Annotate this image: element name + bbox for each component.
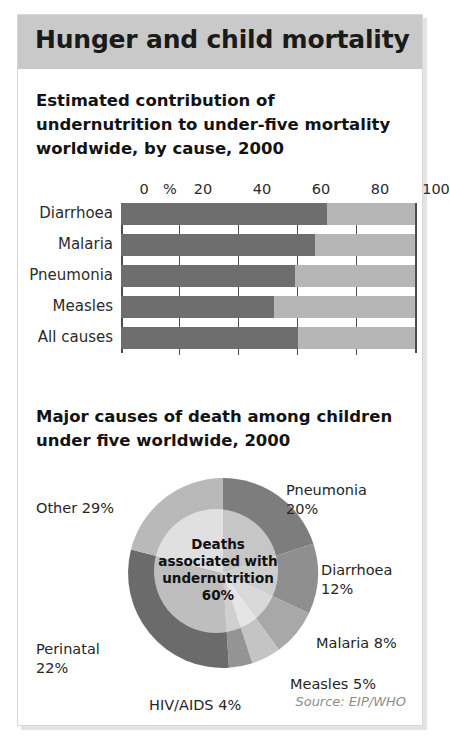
bar-value-measles: [121, 296, 274, 318]
pie-callout-hivaids: HIV/AIDS 4%: [149, 696, 241, 715]
tick-mark-60-g2: [297, 256, 298, 265]
pie-slice-measles: [223, 573, 279, 663]
axis-percent-symbol: %: [163, 181, 177, 197]
axis-tick-0: 0: [139, 181, 148, 197]
page-title: Hunger and child mortality: [35, 25, 410, 54]
infographic-card: Hunger and child mortality Estimated con…: [17, 14, 423, 726]
tick-mark-60-g4: [297, 318, 298, 327]
pie-slice-diarrhoea: [223, 544, 318, 614]
tick-mark-40-g4: [238, 318, 239, 327]
bar-row-label-pneumonia: Pneumonia: [29, 266, 113, 284]
plot-right-border: [415, 203, 417, 353]
pie-chart-title: Major causes of death among children und…: [36, 405, 408, 453]
axis-tick-60: 60: [312, 181, 330, 197]
tick-mark-20-g1: [179, 225, 180, 234]
tick-mark-40-g2: [238, 256, 239, 265]
bar-chart-x-axis: 0 % 20 40 60 80 100: [18, 181, 422, 201]
pie-callout-measles: Measles 5%: [290, 675, 376, 694]
table-row: All causes: [121, 327, 415, 349]
table-row: Diarrhoea: [121, 203, 415, 225]
tick-mark-20-g4: [179, 318, 180, 327]
pie-slice-perinatal: [128, 549, 229, 668]
pie-inner-undernutrition-disc: [154, 509, 278, 633]
table-row: Pneumonia: [121, 265, 415, 287]
axis-tick-80: 80: [371, 181, 389, 197]
bar-chart: 0 % 20 40 60 80 100: [18, 181, 422, 366]
pie-slice-other: [131, 478, 223, 573]
pie-center-undernutrition-label: Deaths associated with undernutrition 60…: [138, 536, 298, 604]
bar-row-label-malaria: Malaria: [58, 235, 113, 253]
bar-chart-title: Estimated contribution of undernutrition…: [36, 89, 408, 161]
axis-tick-20: 20: [194, 181, 212, 197]
bar-row-label-diarrhoea: Diarrhoea: [39, 204, 113, 222]
table-row: Measles: [121, 296, 415, 318]
source-note: Source: EIP/WHO: [295, 694, 406, 709]
bar-value-pneumonia: [121, 265, 295, 287]
bar-chart-plot-area: Diarrhoea Malaria Pneumonia: [121, 203, 417, 353]
tick-mark-80-g2: [356, 256, 357, 265]
bar-value-all-causes: [121, 327, 298, 349]
tick-mark-80-g3: [356, 287, 357, 296]
tick-mark-80-g4: [356, 318, 357, 327]
pie-callout-other: Other 29%: [36, 499, 114, 518]
axis-tick-100: 100: [422, 181, 450, 197]
tick-mark-80-bottom: [356, 349, 357, 355]
bar-value-malaria: [121, 234, 315, 256]
tick-mark-20-g2: [179, 256, 180, 265]
pie-slice-hivaids: [223, 573, 252, 668]
tick-mark-40-g3: [238, 287, 239, 296]
bar-value-diarrhoea: [121, 203, 327, 225]
pie-slice-pneumonia: [223, 478, 313, 573]
table-row: Malaria: [121, 234, 415, 256]
tick-mark-40-g1: [238, 225, 239, 234]
axis-tick-40: 40: [253, 181, 271, 197]
pie-callout-diarrhoea: Diarrhoea 12%: [321, 561, 392, 599]
bar-row-label-all-causes: All causes: [38, 328, 113, 346]
tick-mark-40-bottom: [238, 349, 239, 355]
tick-mark-60-g3: [297, 287, 298, 296]
tick-mark-20-g3: [179, 287, 180, 296]
pie-slice-malaria: [223, 573, 309, 650]
pie-callout-perinatal: Perinatal 22%: [36, 640, 100, 678]
pie-callout-malaria: Malaria 8%: [316, 634, 397, 653]
bar-row-label-measles: Measles: [53, 297, 113, 315]
header-banner: Hunger and child mortality: [18, 15, 422, 69]
tick-mark-20-bottom: [179, 349, 180, 355]
tick-mark-60-g1: [297, 225, 298, 234]
pie-callout-pneumonia: Pneumonia 20%: [286, 481, 367, 519]
tick-mark-80-g1: [356, 225, 357, 234]
tick-mark-60-bottom: [297, 349, 298, 355]
